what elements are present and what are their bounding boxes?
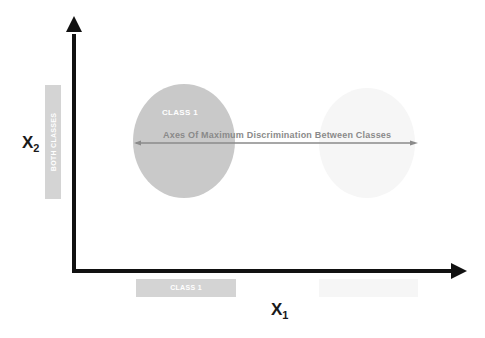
- x-projection-bar-class2: [319, 279, 418, 297]
- x-axis-label: X1: [271, 300, 288, 321]
- x-axis-label-subscript: 1: [282, 309, 288, 321]
- y-axis-label-subscript: 2: [33, 142, 39, 154]
- discrimination-axis-label: Axes Of Maximum Discrimination Between C…: [163, 130, 391, 140]
- y-axis-arrow: [66, 16, 82, 273]
- diagram-canvas: [0, 0, 485, 338]
- y-projection-bar-label: BOTH CLASSES: [50, 113, 57, 171]
- x-axis-arrow: [72, 263, 467, 279]
- class1-ellipse-label: CLASS 1: [162, 108, 198, 117]
- y-axis-label-main: X: [22, 133, 33, 152]
- x-axis-label-main: X: [271, 300, 282, 319]
- y-axis-label: X2: [22, 133, 39, 154]
- class1-ellipse: [133, 84, 235, 198]
- x-projection-bar-class1-label: CLASS 1: [136, 284, 236, 291]
